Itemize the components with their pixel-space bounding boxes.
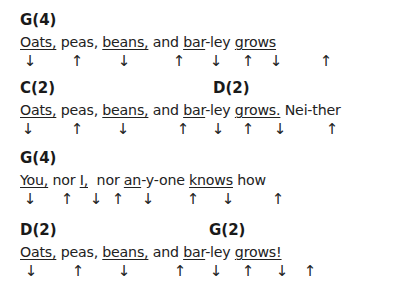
chord-label: C(2) bbox=[20, 80, 55, 96]
up-strum-arrow-icon: ↑ bbox=[242, 264, 255, 278]
up-strum-arrow-icon: ↑ bbox=[71, 54, 84, 68]
down-strum-arrow-icon: ↓ bbox=[24, 192, 37, 206]
down-strum-arrow-icon: ↓ bbox=[212, 122, 225, 136]
stressed-syllable: grows! bbox=[235, 244, 282, 260]
stressed-syllable: bar bbox=[183, 102, 205, 118]
up-strum-arrow-icon: ↑ bbox=[242, 122, 255, 136]
down-strum-arrow-icon: ↓ bbox=[90, 192, 103, 206]
chord-label: G(4) bbox=[20, 150, 56, 166]
up-strum-arrow-icon: ↑ bbox=[304, 264, 317, 278]
lyric-text: -ley bbox=[205, 244, 235, 260]
lyric-text: and bbox=[148, 102, 183, 118]
stressed-syllable: Oats, bbox=[20, 34, 56, 50]
lyric-text: and bbox=[148, 34, 183, 50]
stressed-syllable: You, bbox=[20, 172, 48, 188]
chord-label: D(2) bbox=[20, 222, 57, 238]
chord-label: G(2) bbox=[209, 222, 245, 238]
down-strum-arrow-icon: ↓ bbox=[270, 54, 283, 68]
lyric-line: You, nor I, nor an-y-one knows how bbox=[20, 172, 266, 188]
down-strum-arrow-icon: ↓ bbox=[210, 54, 223, 68]
down-strum-arrow-icon: ↓ bbox=[210, 264, 223, 278]
down-strum-arrow-icon: ↓ bbox=[24, 54, 37, 68]
lyric-text: peas, bbox=[56, 102, 102, 118]
stressed-syllable: knows bbox=[189, 172, 233, 188]
up-strum-arrow-icon: ↑ bbox=[187, 192, 200, 206]
chord-label: G(4) bbox=[20, 12, 56, 28]
stressed-syllable: grows bbox=[235, 34, 276, 50]
lyric-text: nor bbox=[88, 172, 124, 188]
up-strum-arrow-icon: ↑ bbox=[174, 264, 187, 278]
stressed-syllable: an bbox=[124, 172, 141, 188]
lyric-line: Oats, peas, beans, and bar-ley grows bbox=[20, 34, 276, 50]
up-strum-arrow-icon: ↑ bbox=[71, 122, 84, 136]
up-strum-arrow-icon: ↑ bbox=[326, 122, 339, 136]
down-strum-arrow-icon: ↓ bbox=[274, 122, 287, 136]
lyric-text: -y-one bbox=[141, 172, 189, 188]
up-strum-arrow-icon: ↑ bbox=[272, 192, 285, 206]
stressed-syllable: Oats, bbox=[20, 244, 56, 260]
up-strum-arrow-icon: ↑ bbox=[177, 122, 190, 136]
lyric-line: Oats, peas, beans, and bar-ley grows! bbox=[20, 244, 282, 260]
down-strum-arrow-icon: ↓ bbox=[117, 122, 130, 136]
down-strum-arrow-icon: ↓ bbox=[118, 54, 131, 68]
lyric-line: Oats, peas, beans, and bar-ley grows. Ne… bbox=[20, 102, 341, 118]
stressed-syllable: beans, bbox=[102, 244, 148, 260]
down-strum-arrow-icon: ↓ bbox=[118, 264, 131, 278]
up-strum-arrow-icon: ↑ bbox=[61, 192, 74, 206]
stressed-syllable: grows. bbox=[235, 102, 281, 118]
up-strum-arrow-icon: ↑ bbox=[72, 264, 85, 278]
lyric-text: Nei-ther bbox=[280, 102, 340, 118]
up-strum-arrow-icon: ↑ bbox=[242, 54, 255, 68]
chord-label: D(2) bbox=[213, 80, 250, 96]
lyric-text: peas, bbox=[56, 244, 102, 260]
lyric-text: how bbox=[233, 172, 266, 188]
down-strum-arrow-icon: ↓ bbox=[276, 264, 289, 278]
down-strum-arrow-icon: ↓ bbox=[22, 122, 35, 136]
lyric-text: and bbox=[148, 244, 183, 260]
stressed-syllable: bar bbox=[183, 34, 205, 50]
up-strum-arrow-icon: ↑ bbox=[320, 54, 333, 68]
lyric-text: peas, bbox=[56, 34, 102, 50]
lyric-text: nor bbox=[48, 172, 80, 188]
stressed-syllable: beans, bbox=[102, 102, 148, 118]
down-strum-arrow-icon: ↓ bbox=[25, 264, 38, 278]
stressed-syllable: beans, bbox=[102, 34, 148, 50]
up-strum-arrow-icon: ↑ bbox=[173, 54, 186, 68]
lyric-text: -ley bbox=[205, 34, 235, 50]
lyric-text: -ley bbox=[205, 102, 235, 118]
stressed-syllable: bar bbox=[183, 244, 205, 260]
up-strum-arrow-icon: ↑ bbox=[112, 192, 125, 206]
down-strum-arrow-icon: ↓ bbox=[142, 192, 155, 206]
down-strum-arrow-icon: ↓ bbox=[222, 192, 235, 206]
stressed-syllable: I, bbox=[80, 172, 88, 188]
stressed-syllable: Oats, bbox=[20, 102, 56, 118]
